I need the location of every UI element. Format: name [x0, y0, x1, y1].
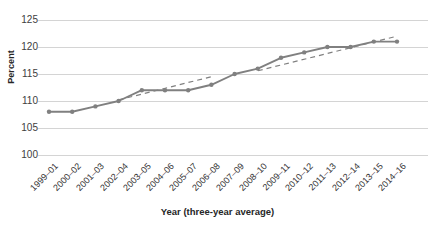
data-point-marker — [256, 66, 260, 70]
data-point-marker — [93, 104, 97, 108]
data-point-marker — [325, 45, 329, 49]
y-tick-label: 100 — [12, 149, 38, 160]
y-tick-label: 120 — [12, 41, 38, 52]
data-point-marker — [47, 110, 51, 114]
line-chart: Percent 125 120 115 110 105 100 1999–012… — [0, 0, 435, 226]
gridline — [38, 155, 428, 156]
data-point-marker — [116, 99, 120, 103]
plot-area — [38, 20, 428, 155]
data-point-marker — [395, 39, 399, 43]
data-point-marker — [209, 83, 213, 87]
data-point-marker — [348, 45, 352, 49]
y-tick-label: 105 — [12, 122, 38, 133]
data-point-marker — [372, 39, 376, 43]
data-point-marker — [186, 88, 190, 92]
data-series-layer — [38, 20, 428, 155]
y-tick-label: 110 — [12, 95, 38, 106]
y-tick-label: 115 — [12, 68, 38, 79]
x-axis-title: Year (three-year average) — [0, 206, 435, 217]
data-point-marker — [302, 50, 306, 54]
data-point-marker — [70, 110, 74, 114]
data-point-marker — [163, 88, 167, 92]
data-point-marker — [279, 56, 283, 60]
data-point-marker — [140, 88, 144, 92]
series-line — [49, 42, 397, 112]
x-axis-tick-labels: 1999–012000–022001–032002–042003–052004–… — [38, 157, 428, 203]
data-point-marker — [232, 72, 236, 76]
y-tick-label: 125 — [12, 14, 38, 25]
